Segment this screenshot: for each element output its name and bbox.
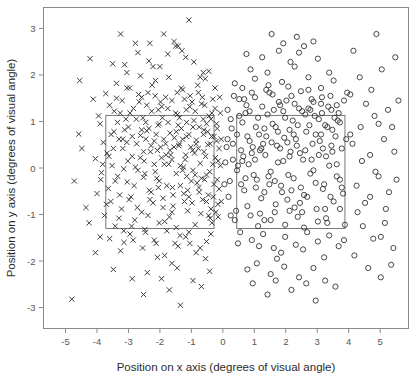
- y-tick-label: 2: [30, 69, 35, 80]
- x-tick-label: 1: [252, 336, 257, 347]
- x-tick-label: 0: [220, 336, 225, 347]
- y-tick-label: -2: [27, 256, 35, 267]
- x-tick-label: -1: [187, 336, 195, 347]
- x-tick-label: -4: [93, 336, 101, 347]
- x-tick-label: 5: [378, 336, 383, 347]
- x-axis-title: Position on x axis (degrees of visual an…: [117, 361, 336, 373]
- y-tick-label: 3: [30, 23, 35, 34]
- scatter-plot-figure: -5-4-3-2-1012345 -3-2-10123 Position on …: [0, 0, 417, 379]
- y-axis-title: Position on y axis (degrees of visual an…: [5, 59, 17, 278]
- y-tick-label: 1: [30, 116, 35, 127]
- scatter-plot-canvas: -5-4-3-2-1012345 -3-2-10123 Position on …: [0, 0, 417, 379]
- x-tick-label: 2: [283, 336, 288, 347]
- x-tick-label: 3: [315, 336, 320, 347]
- y-tick-label: -3: [27, 302, 35, 313]
- x-tick-label: -3: [124, 336, 132, 347]
- figure-background: [0, 0, 417, 379]
- y-tick-label: 0: [30, 163, 35, 174]
- x-tick-label: 4: [346, 336, 351, 347]
- y-tick-label: -1: [27, 209, 35, 220]
- x-tick-label: -2: [156, 336, 164, 347]
- x-tick-label: -5: [61, 336, 69, 347]
